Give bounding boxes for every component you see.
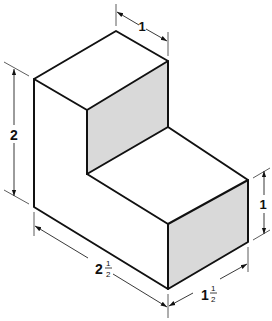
- dimension-label-overall-height: 2: [10, 127, 18, 143]
- dimension-label-overall-length-whole: 2: [95, 261, 103, 277]
- dimension-label-width-whole: 1: [201, 287, 209, 303]
- dimension-label-top-depth: 1: [138, 19, 145, 34]
- isometric-block-drawing: 1 2 1 2 1 2 1 1 2: [0, 0, 272, 321]
- dimension-label-overall-length-numerator: 1: [106, 259, 111, 268]
- dimension-overall-height: 2: [4, 62, 29, 204]
- dimension-label-width-numerator: 1: [211, 284, 216, 293]
- dimension-label-overall-length-denominator: 2: [106, 270, 111, 279]
- dimension-step-height: 1: [253, 168, 270, 240]
- dimension-label-width-denominator: 2: [211, 295, 216, 304]
- dimension-label-step-height: 1: [259, 197, 266, 212]
- block-faces: [34, 31, 248, 289]
